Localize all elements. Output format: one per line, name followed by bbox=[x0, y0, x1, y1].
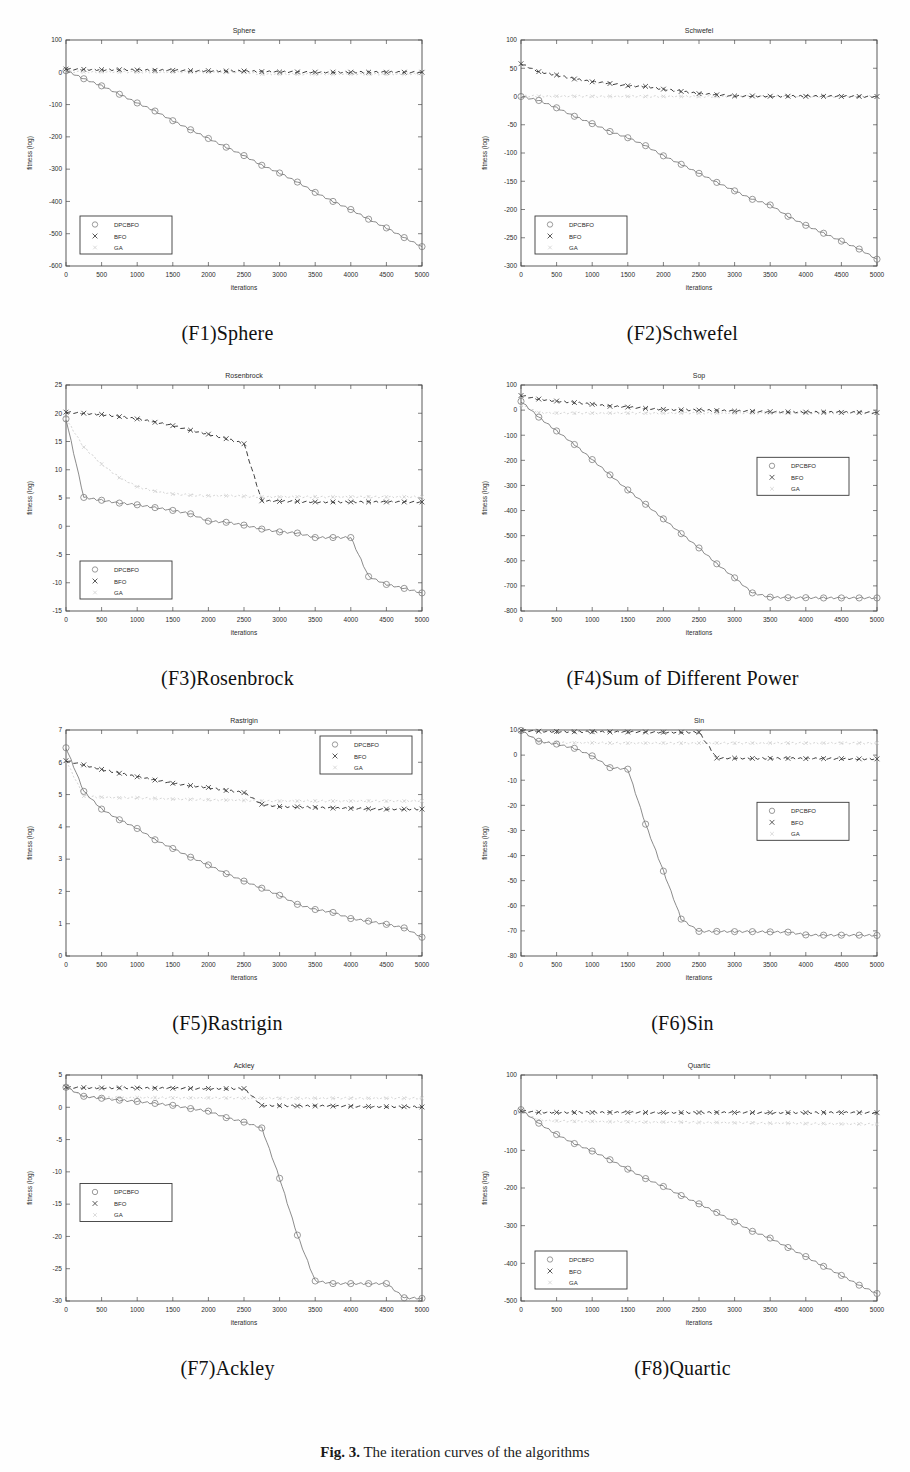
x-tick-label: 1000 bbox=[584, 961, 599, 968]
chart-background bbox=[473, 1053, 893, 1353]
y-axis-label: fitness (log) bbox=[26, 481, 34, 515]
x-tick-label: 0 bbox=[64, 1306, 68, 1313]
legend-label: BFO bbox=[569, 234, 582, 240]
chart-title: Rastrigin bbox=[230, 717, 258, 725]
y-tick-label: -100 bbox=[503, 1147, 516, 1154]
x-tick-label: 1000 bbox=[584, 1306, 599, 1313]
y-tick-label: -10 bbox=[52, 579, 62, 586]
x-tick-label: 0 bbox=[64, 961, 68, 968]
y-tick-label: 6 bbox=[58, 759, 62, 766]
x-tick-label: 500 bbox=[551, 616, 562, 623]
x-tick-label: 4500 bbox=[379, 1306, 394, 1313]
legend-label: DPCBFO bbox=[114, 222, 139, 228]
x-tick-label: 4500 bbox=[834, 1306, 849, 1313]
x-tick-label: 4500 bbox=[379, 616, 394, 623]
panel-caption-f4: (F4)Sum of Different Power bbox=[455, 667, 910, 690]
chart-f4: Sop0500100015002000250030003500400045005… bbox=[473, 363, 893, 663]
y-tick-label: -70 bbox=[507, 927, 517, 934]
x-tick-label: 5000 bbox=[414, 271, 429, 278]
x-tick-label: 4000 bbox=[343, 271, 358, 278]
legend-label: BFO bbox=[114, 234, 127, 240]
x-tick-label: 0 bbox=[519, 271, 523, 278]
chart-title: Sop bbox=[692, 372, 705, 380]
plot-area-f1: Sphere0500100015002000250030003500400045… bbox=[18, 18, 438, 318]
legend-label: BFO bbox=[114, 579, 127, 585]
x-tick-label: 2000 bbox=[201, 961, 216, 968]
chart-legend: DPCBFOBFOGA bbox=[320, 736, 412, 774]
legend-label: BFO bbox=[354, 754, 367, 760]
chart-f1: Sphere0500100015002000250030003500400045… bbox=[18, 18, 438, 318]
y-tick-label: -500 bbox=[48, 230, 61, 237]
y-tick-label: 0 bbox=[58, 523, 62, 530]
chart-f8: Quartic050010001500200025003000350040004… bbox=[473, 1053, 893, 1353]
y-axis-label: fitness (log) bbox=[26, 136, 34, 170]
y-tick-label: -30 bbox=[52, 1297, 62, 1304]
x-tick-label: 5000 bbox=[869, 616, 884, 623]
x-tick-label: 1000 bbox=[584, 616, 599, 623]
panel-caption-f1: (F1)Sphere bbox=[0, 322, 455, 345]
x-tick-label: 2500 bbox=[236, 961, 251, 968]
x-tick-label: 3000 bbox=[727, 961, 742, 968]
chart-title: Schwefel bbox=[684, 27, 713, 34]
x-tick-label: 2500 bbox=[236, 1306, 251, 1313]
y-tick-label: -150 bbox=[503, 178, 516, 185]
plot-area-f8: Quartic050010001500200025003000350040004… bbox=[473, 1053, 893, 1353]
x-tick-label: 4500 bbox=[379, 961, 394, 968]
x-tick-label: 4000 bbox=[798, 1306, 813, 1313]
x-tick-label: 1000 bbox=[129, 271, 144, 278]
x-axis-label: iterations bbox=[685, 974, 712, 981]
legend-label: BFO bbox=[569, 1269, 582, 1275]
panel-caption-f7: (F7)Ackley bbox=[0, 1357, 455, 1380]
x-tick-label: 0 bbox=[64, 271, 68, 278]
y-tick-label: -600 bbox=[48, 262, 61, 269]
x-tick-label: 500 bbox=[96, 1306, 107, 1313]
y-tick-label: 7 bbox=[58, 726, 62, 733]
x-tick-label: 5000 bbox=[869, 271, 884, 278]
x-tick-label: 1500 bbox=[165, 271, 180, 278]
y-tick-label: -700 bbox=[503, 582, 516, 589]
x-tick-label: 4500 bbox=[834, 616, 849, 623]
x-tick-label: 3000 bbox=[272, 961, 287, 968]
y-tick-label: -600 bbox=[503, 557, 516, 564]
y-tick-label: -5 bbox=[56, 551, 62, 558]
y-tick-label: 5 bbox=[58, 791, 62, 798]
legend-label: GA bbox=[569, 245, 578, 251]
chart-legend: DPCBFOBFOGA bbox=[757, 457, 849, 495]
x-tick-label: 3000 bbox=[727, 616, 742, 623]
x-tick-label: 0 bbox=[519, 1306, 523, 1313]
chart-background bbox=[18, 18, 438, 318]
y-tick-label: -200 bbox=[503, 457, 516, 464]
x-tick-label: 2500 bbox=[691, 271, 706, 278]
y-tick-label: -400 bbox=[48, 198, 61, 205]
x-tick-label: 4500 bbox=[379, 271, 394, 278]
y-axis-label: fitness (log) bbox=[481, 136, 489, 170]
figure-caption-text: The iteration curves of the algorithms bbox=[363, 1444, 589, 1460]
x-tick-label: 3000 bbox=[272, 271, 287, 278]
x-tick-label: 2000 bbox=[656, 961, 671, 968]
x-tick-label: 4000 bbox=[798, 961, 813, 968]
panel-caption-f2: (F2)Schwefel bbox=[455, 322, 910, 345]
x-tick-label: 4000 bbox=[798, 616, 813, 623]
y-tick-label: 20 bbox=[54, 410, 62, 417]
y-tick-label: -10 bbox=[52, 1168, 62, 1175]
panel-caption-f3: (F3)Rosenbrock bbox=[0, 667, 455, 690]
x-tick-label: 3500 bbox=[307, 961, 322, 968]
x-tick-label: 500 bbox=[551, 271, 562, 278]
legend-label: BFO bbox=[114, 1201, 127, 1207]
legend-label: GA bbox=[114, 1212, 123, 1218]
x-tick-label: 2000 bbox=[656, 616, 671, 623]
x-tick-label: 2500 bbox=[236, 616, 251, 623]
plot-area-f3: Rosenbrock050010001500200025003000350040… bbox=[18, 363, 438, 663]
x-tick-label: 500 bbox=[96, 271, 107, 278]
y-tick-label: 100 bbox=[506, 1071, 517, 1078]
x-axis-label: iterations bbox=[230, 284, 257, 291]
x-axis-label: iterations bbox=[230, 974, 257, 981]
x-axis-label: iterations bbox=[685, 284, 712, 291]
x-tick-label: 500 bbox=[551, 1306, 562, 1313]
y-tick-label: 0 bbox=[58, 1104, 62, 1111]
x-tick-label: 3500 bbox=[762, 961, 777, 968]
x-tick-label: 2500 bbox=[691, 961, 706, 968]
chart-title: Sin bbox=[693, 717, 703, 724]
x-tick-label: 5000 bbox=[414, 616, 429, 623]
y-tick-label: 100 bbox=[506, 36, 517, 43]
